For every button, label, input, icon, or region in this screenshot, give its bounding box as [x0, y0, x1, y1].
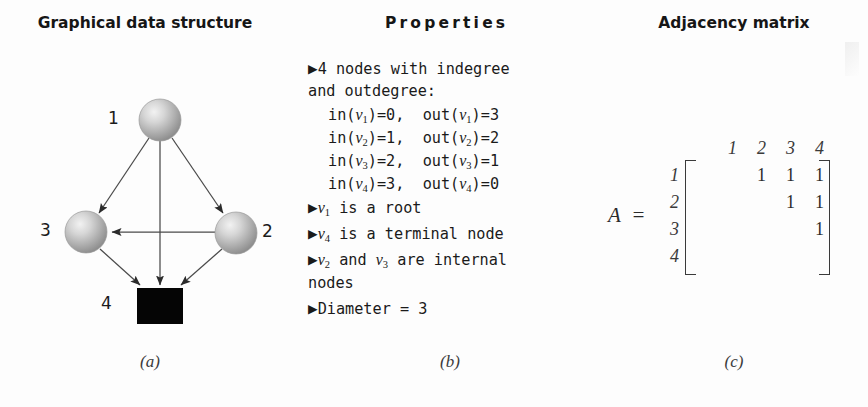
- matrix-cell-1-1: [718, 162, 747, 189]
- row-bracket-gap: [689, 243, 718, 270]
- bullet-icon: ▶: [308, 200, 318, 215]
- matrix-table-wrap: 1 2 3 4 1 1 1 1 2: [660, 135, 863, 270]
- matrix-col-header-1: 1: [718, 135, 747, 162]
- graph-diagram: [0, 0, 300, 360]
- bullet-icon: ▶: [308, 61, 318, 76]
- bullet-icon: ▶: [308, 301, 318, 316]
- figure-page: Graphical data structure Properties Adja…: [0, 0, 868, 407]
- graph-panel: 1 3 2 4: [0, 0, 300, 407]
- node-symbol-in-4: v4: [355, 175, 367, 192]
- internal-space-1: [330, 251, 339, 269]
- matrix-cell-3-1: [718, 216, 747, 243]
- node-symbol-out-3: v3: [459, 152, 471, 169]
- terminal-space: [330, 225, 339, 243]
- subfigure-caption-a: (a): [0, 352, 300, 372]
- matrix-cell-2-2: [747, 189, 776, 216]
- matrix-cell-3-3: [776, 216, 805, 243]
- matrix-row: 3 1: [660, 216, 863, 243]
- graph-node-4: [137, 288, 183, 324]
- property-text-2: and outdegree:: [308, 82, 436, 100]
- root-node-symbol: v1: [318, 199, 330, 216]
- property-line-terminal: ▶v4 is a terminal node: [308, 225, 504, 244]
- in-label-2: in(: [328, 129, 355, 147]
- graph-node-label-1: 1: [108, 108, 119, 128]
- row-bracket-gap: [689, 189, 718, 216]
- edge-v2-v4: [181, 249, 222, 285]
- graph-node-3: [65, 211, 107, 253]
- in-label-4: in(: [328, 175, 355, 193]
- graph-edges: [99, 138, 223, 285]
- internal-node-symbol-a: v2: [318, 251, 330, 268]
- property-line-nodes-indegree: ▶4 nodes with indegree: [308, 60, 510, 78]
- matrix-cell-3-4: 1: [805, 216, 834, 243]
- matrix-name: A: [608, 203, 621, 227]
- gap-1: [404, 106, 422, 124]
- property-text-1: 4 nodes with indegree: [318, 60, 510, 78]
- matrix-row: 1 1 1 1: [660, 162, 863, 189]
- node-symbol-out-4: v4: [459, 175, 471, 192]
- internal-node-symbol-b: v3: [376, 251, 388, 268]
- root-text-value: is a root: [339, 199, 421, 217]
- internal-space-3: [388, 251, 397, 269]
- in-value-3: )=2,: [368, 152, 405, 170]
- matrix-cell-4-3: [776, 243, 805, 270]
- graph-node-label-4: 4: [101, 293, 112, 313]
- row-bracket-gap: [689, 216, 718, 243]
- bullet-icon: ▶: [308, 252, 318, 267]
- gap-4: [404, 175, 422, 193]
- degree-row-v4: in(v4)=3, out(v4)=0: [328, 175, 499, 194]
- matrix-col-header-3: 3: [776, 135, 805, 162]
- matrix-cell-4-4: [805, 243, 834, 270]
- graph-node-1: [139, 99, 181, 141]
- graph-node-label-2: 2: [262, 221, 273, 241]
- matrix-row-header-3: 3: [660, 216, 689, 243]
- edge-v3-v4: [100, 249, 140, 285]
- in-value-2: )=1,: [368, 129, 405, 147]
- gap-2: [404, 129, 422, 147]
- matrix-cell-2-4: 1: [805, 189, 834, 216]
- subfigure-caption-b: (b): [300, 352, 600, 372]
- out-label-1: out(: [423, 106, 460, 124]
- out-label-3: out(: [423, 152, 460, 170]
- matrix-cell-4-2: [747, 243, 776, 270]
- matrix-cell-1-2: 1: [747, 162, 776, 189]
- matrix-row: 4: [660, 243, 863, 270]
- node-symbol-out-1: v1: [459, 106, 471, 123]
- out-value-4: )=0: [472, 175, 499, 193]
- terminal-text-value: is a terminal node: [339, 225, 504, 243]
- internal-end-text: are internal: [397, 251, 507, 269]
- matrix-cell-2-3: 1: [776, 189, 805, 216]
- matrix-row-header-1: 1: [660, 162, 689, 189]
- row-bracket-gap-r: [834, 189, 863, 216]
- matrix-cell-1-3: 1: [776, 162, 805, 189]
- bracket-spacer-right: [834, 135, 863, 162]
- edge-v1-v2: [172, 138, 223, 213]
- property-line-diameter: ▶Diameter = 3: [308, 300, 427, 318]
- property-line-internal-cont: nodes: [308, 274, 354, 292]
- out-label-2: out(: [423, 129, 460, 147]
- matrix-row-header-2: 2: [660, 189, 689, 216]
- properties-panel: ▶4 nodes with indegree and outdegree: in…: [300, 0, 600, 407]
- node-symbol-in-1: v1: [355, 106, 367, 123]
- in-label-1: in(: [328, 106, 355, 124]
- node-symbol-in-2: v2: [355, 129, 367, 146]
- in-value-1: )=0,: [368, 106, 405, 124]
- property-line-root: ▶v1 is a root: [308, 199, 421, 218]
- matrix-col-header-4: 4: [805, 135, 834, 162]
- internal-mid-text: and: [339, 251, 366, 269]
- matrix-row: 2 1 1: [660, 189, 863, 216]
- out-value-3: )=1: [472, 152, 499, 170]
- matrix-header-row: 1 2 3 4: [660, 135, 863, 162]
- degree-row-v3: in(v3)=2, out(v3)=1: [328, 152, 499, 171]
- degree-row-v1: in(v1)=0, out(v1)=3: [328, 106, 499, 125]
- gap-3: [404, 152, 422, 170]
- graph-node-label-3: 3: [40, 220, 51, 240]
- matrix-cell-1-4: 1: [805, 162, 834, 189]
- matrix-col-header-2: 2: [747, 135, 776, 162]
- internal-space-2: [367, 251, 376, 269]
- edge-v1-v3: [99, 138, 149, 213]
- adjacency-matrix-panel: A = 1 2 3 4 1 1 1: [600, 0, 868, 407]
- in-label-3: in(: [328, 152, 355, 170]
- row-bracket-gap-r: [834, 162, 863, 189]
- matrix-cell-4-1: [718, 243, 747, 270]
